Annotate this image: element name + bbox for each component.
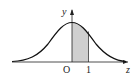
- y-axis-arrow-icon: [70, 9, 74, 15]
- shaded-region: [72, 23, 88, 63]
- y-axis-label: y: [61, 6, 67, 17]
- tick-label-1: 1: [86, 64, 91, 75]
- bell-curve: [12, 23, 126, 62]
- normal-curve-diagram: y O 1 z: [0, 0, 139, 81]
- origin-label: O: [63, 64, 70, 75]
- x-axis-label: z: [125, 64, 130, 75]
